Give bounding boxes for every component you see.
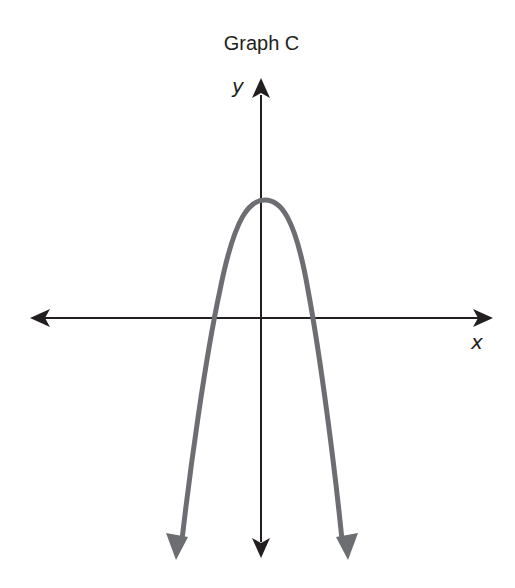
curve-left-arrow-icon — [166, 533, 188, 560]
chart-canvas: y x — [0, 0, 515, 588]
x-axis-label: x — [470, 330, 483, 354]
y-axis-label: y — [231, 74, 245, 98]
curve-right-arrow-icon — [336, 533, 358, 560]
